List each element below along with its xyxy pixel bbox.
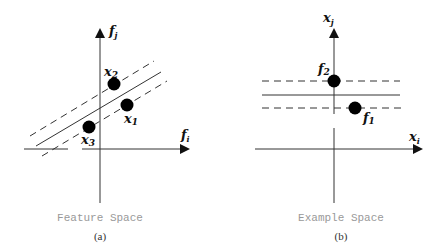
panel-feature-space: fj fi x2 x1 x3 Feature Space (a) bbox=[24, 23, 190, 243]
x-axis-label: xi bbox=[408, 129, 420, 146]
panel-example-space: xj xi f2 f1 Example Space (b) bbox=[255, 10, 421, 243]
panel-label-b: (b) bbox=[335, 230, 348, 243]
caption-feature-space: Feature Space bbox=[57, 212, 143, 224]
point-label-f2: f2 bbox=[317, 61, 330, 77]
point-label-x3: x3 bbox=[80, 132, 95, 148]
y-axis-label: fj bbox=[108, 23, 118, 40]
point-label-x1: x1 bbox=[123, 111, 138, 127]
dashed-margin-lower bbox=[42, 81, 167, 156]
x-axis-label: fi bbox=[180, 127, 190, 144]
caption-example-space: Example Space bbox=[298, 212, 384, 224]
y-axis-label: xj bbox=[322, 10, 334, 27]
point-label-f1: f1 bbox=[362, 110, 375, 126]
panel-label-a: (a) bbox=[94, 230, 107, 243]
point-x1 bbox=[121, 99, 134, 112]
point-f1 bbox=[349, 102, 362, 115]
separating-line bbox=[36, 72, 161, 146]
point-label-x2: x2 bbox=[103, 64, 118, 80]
diagram-canvas: fj fi x2 x1 x3 Feature Space (a) xj xi f… bbox=[0, 0, 442, 252]
